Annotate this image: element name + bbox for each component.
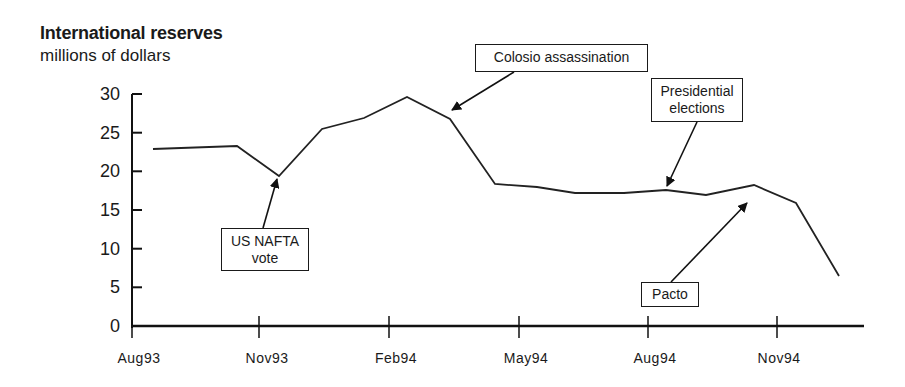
y-tick-label: 10 bbox=[100, 239, 120, 259]
y-tick-label: 15 bbox=[100, 200, 120, 220]
x-tick-label: Feb94 bbox=[375, 350, 417, 366]
annotation-pacto: Pacto bbox=[641, 282, 699, 307]
y-tick-label: 20 bbox=[100, 161, 120, 181]
elections-arrow bbox=[667, 122, 697, 186]
x-tick-label: Aug93 bbox=[118, 350, 161, 366]
x-tick-label: Aug94 bbox=[634, 350, 677, 366]
annotation-colosio: Colosio assassination bbox=[475, 44, 648, 72]
y-tick-label: 30 bbox=[100, 84, 120, 104]
annotation-elections-line2: elections bbox=[652, 100, 742, 117]
annotation-nafta-line2: vote bbox=[222, 250, 308, 267]
x-tick-label: May94 bbox=[504, 350, 549, 366]
x-axis: Aug93 Nov93 Feb94 May94 Aug94 Nov94 bbox=[118, 316, 864, 366]
annotation-elections-line1: Presidential bbox=[652, 83, 742, 100]
y-axis: 0 5 10 15 20 25 30 bbox=[100, 84, 142, 336]
annotation-colosio-text: Colosio assassination bbox=[494, 49, 629, 65]
y-tick-label: 25 bbox=[100, 123, 120, 143]
chart-canvas: 0 5 10 15 20 25 30 Aug93 Nov93 Feb94 May… bbox=[0, 0, 905, 387]
annotation-elections: Presidential elections bbox=[651, 78, 743, 122]
y-tick-label: 0 bbox=[110, 316, 120, 336]
annotation-pacto-text: Pacto bbox=[652, 286, 688, 302]
y-tick-label: 5 bbox=[110, 277, 120, 297]
x-tick-label: Nov94 bbox=[758, 350, 801, 366]
pacto-arrow bbox=[671, 203, 747, 282]
nafta-arrow bbox=[263, 179, 277, 228]
colosio-arrow bbox=[452, 72, 514, 110]
annotation-nafta: US NAFTA vote bbox=[221, 228, 309, 271]
x-tick-label: Nov93 bbox=[246, 350, 289, 366]
annotation-nafta-line1: US NAFTA bbox=[222, 233, 308, 250]
